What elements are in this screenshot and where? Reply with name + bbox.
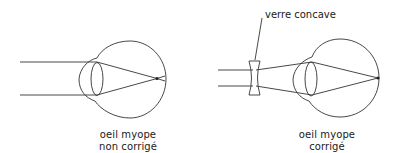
focal-point-corrected (377, 77, 380, 80)
caption-corrected-line1: oeil myope (282, 129, 372, 141)
diverged-ray-top (256, 62, 312, 70)
callout-leader-line (255, 18, 262, 60)
concave-lens-callout: verre concave (265, 9, 336, 21)
eyeball-outline (293, 39, 379, 117)
refracted-ray-bottom (97, 79, 157, 96)
uncorrected-eye-diagram (20, 41, 166, 118)
corrected-eye-diagram (218, 18, 379, 117)
caption-uncorrected: oeil myope non corrigé (83, 129, 173, 153)
caption-corrected-line2: corrigé (282, 141, 372, 153)
concave-lens-shape (249, 61, 260, 95)
crystalline-lens (305, 62, 317, 96)
diverged-ray-bottom (256, 86, 312, 95)
refracted-ray-top (312, 62, 378, 78)
refracted-ray-top (97, 62, 157, 79)
refracted-ray-bottom (312, 78, 378, 95)
caption-corrected: oeil myope corrigé (282, 129, 372, 153)
focal-point-uncorrected (155, 77, 158, 80)
caption-uncorrected-line1: oeil myope (83, 129, 173, 141)
caption-uncorrected-line2: non corrigé (83, 141, 173, 153)
crystalline-lens (91, 63, 103, 96)
